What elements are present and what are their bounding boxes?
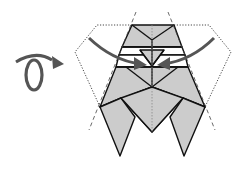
origami-diagram xyxy=(0,0,244,171)
turn-over-icon xyxy=(16,55,64,90)
